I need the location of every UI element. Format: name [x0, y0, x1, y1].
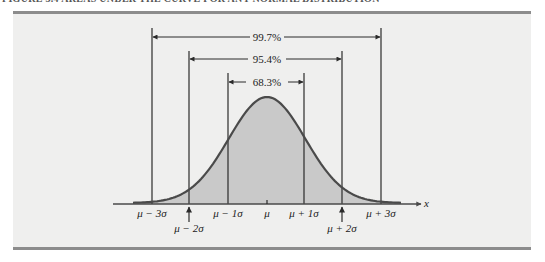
- tick-mu-minus-2-sigma: μ − 2σ: [173, 222, 204, 234]
- interval-954: 95.4%: [190, 53, 341, 65]
- shaded-area: [133, 97, 401, 204]
- label-95-4: 95.4%: [253, 53, 281, 65]
- normal-distribution-chart: x 99.7% 95.4% 68.3% μ − 3σ μ − 1σ μ μ + …: [0, 0, 545, 262]
- tick-mu-plus-2-sigma: μ + 2σ: [326, 222, 357, 234]
- interval-683: 68.3%: [229, 76, 303, 88]
- tick-mu: μ: [263, 207, 270, 219]
- tick-mu-plus-3-sigma: μ + 3σ: [365, 207, 396, 219]
- interval-997: 99.7%: [153, 31, 380, 43]
- label-68-3: 68.3%: [253, 76, 281, 88]
- x-axis-label: x: [423, 197, 429, 209]
- label-99-7: 99.7%: [253, 31, 281, 43]
- tick-mu-minus-3-sigma: μ − 3σ: [136, 207, 167, 219]
- tick-mu-plus-1-sigma: μ + 1σ: [288, 207, 319, 219]
- tick-mu-minus-1-sigma: μ − 1σ: [212, 207, 243, 219]
